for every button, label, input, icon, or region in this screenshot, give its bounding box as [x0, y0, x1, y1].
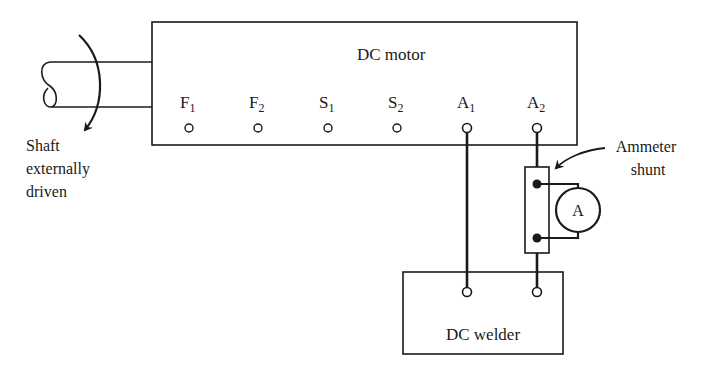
dc-motor-label: DC motor	[357, 45, 426, 64]
terminal-label-a1: A1	[457, 93, 475, 115]
terminal-s1-icon	[324, 124, 332, 132]
ammeter: A	[556, 188, 600, 232]
dc-motor-welder-diagram: Shaft externally driven DC motor F1 F2 S…	[0, 0, 720, 374]
welder-terminal-2-icon	[533, 288, 542, 297]
shaft	[42, 35, 152, 130]
terminal-label-a2: A2	[527, 93, 545, 115]
dc-welder: DC welder	[403, 272, 563, 354]
terminal-label-s2: S2	[388, 93, 403, 115]
welder-terminal-1-icon	[463, 288, 472, 297]
terminal-label-f1: F1	[180, 93, 195, 115]
shaft-break-icon	[42, 62, 57, 107]
terminal-f2-icon	[254, 124, 262, 132]
shunt-pointer-arrow-icon	[556, 148, 605, 168]
rotation-arrow-icon	[79, 35, 100, 130]
terminal-a1-icon	[463, 124, 472, 133]
terminal-f1-icon	[185, 124, 193, 132]
terminal-s2-icon	[393, 124, 401, 132]
ammeter-symbol: A	[572, 202, 584, 219]
ammeter-lead-bottom	[537, 232, 578, 238]
terminal-a2-icon	[533, 124, 542, 133]
terminal-label-f2: F2	[249, 93, 264, 115]
ammeter-shunt	[525, 167, 578, 253]
ammeter-lead-top	[537, 184, 578, 188]
shaft-label: Shaft externally driven	[26, 137, 94, 200]
dc-motor: DC motor F1 F2 S1 S2 A1 A2	[152, 22, 577, 145]
dc-welder-label: DC welder	[446, 325, 520, 344]
wiring	[467, 133, 537, 289]
shunt-label: Ammeter shunt	[616, 138, 680, 178]
terminal-label-s1: S1	[319, 93, 334, 115]
dc-motor-box	[152, 22, 577, 145]
